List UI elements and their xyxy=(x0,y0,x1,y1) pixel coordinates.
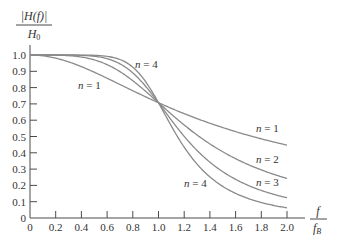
y-tick-label: 0.2 xyxy=(12,179,26,191)
x-tick-label: 0.4 xyxy=(75,221,89,233)
x-tick-label: 1.0 xyxy=(152,221,166,233)
x-tick-label: 0.8 xyxy=(126,221,140,233)
y-tick-label: 0.7 xyxy=(12,98,26,110)
y-tick-label: 0.9 xyxy=(12,65,26,77)
curve-n2 xyxy=(30,55,287,178)
x-axis-ticks: 00.20.40.60.81.01.21.41.61.82.0 xyxy=(27,211,294,233)
x-tick-label: 0 xyxy=(27,221,33,233)
x-tick-label: 1.2 xyxy=(177,221,191,233)
response-curves xyxy=(30,55,287,208)
curve-n3 xyxy=(30,55,287,198)
annotation-n4-top: n = 4 xyxy=(135,58,158,70)
y-axis-label-numerator: |H(f)| xyxy=(21,9,48,23)
x-axis-label-numerator: f xyxy=(316,204,321,218)
x-tick-label: 0.6 xyxy=(100,221,114,233)
x-tick-label: 1.4 xyxy=(203,221,217,233)
butterworth-response-chart: |H(f)| H0 00.10.20.30.40.50.60.70.80.91.… xyxy=(0,0,339,241)
x-axis-label: f fB xyxy=(310,204,327,236)
y-axis-label: |H(f)| H0 xyxy=(16,9,52,42)
x-tick-label: 1.8 xyxy=(254,221,268,233)
annotation-n1-right: n = 1 xyxy=(256,122,279,134)
y-tick-label: 0.6 xyxy=(12,114,26,126)
y-tick-label: 1.0 xyxy=(12,49,26,61)
y-tick-label: 0.1 xyxy=(12,196,26,208)
annotation-n1-left: n = 1 xyxy=(78,79,101,91)
y-tick-label: 0.8 xyxy=(12,82,26,94)
x-tick-label: 1.6 xyxy=(229,221,243,233)
annotation-n4-bottom: n = 4 xyxy=(184,177,207,189)
x-tick-label: 0.2 xyxy=(49,221,63,233)
y-tick-label: 0.3 xyxy=(12,163,26,175)
y-tick-label: 0 xyxy=(21,212,27,224)
y-axis-label-denominator: H0 xyxy=(27,27,41,42)
curve-n1 xyxy=(30,55,287,145)
y-axis-ticks: 00.10.20.30.40.50.60.70.80.91.0 xyxy=(12,49,37,224)
x-axis-label-denominator: fB xyxy=(313,221,321,236)
annotation-n3: n = 3 xyxy=(256,176,279,188)
annotation-n2: n = 2 xyxy=(256,153,279,165)
y-tick-label: 0.4 xyxy=(12,147,26,159)
x-tick-label: 2.0 xyxy=(280,221,294,233)
y-tick-label: 0.5 xyxy=(12,131,26,143)
